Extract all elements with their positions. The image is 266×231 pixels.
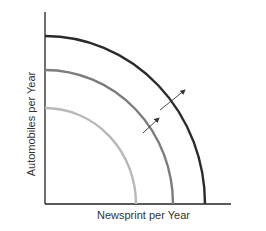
ppf-diagram (0, 0, 266, 231)
x-axis-label: Newsprint per Year (97, 209, 190, 221)
y-axis-label: Automobiles per Year (25, 69, 37, 179)
outer-ppf-curve (45, 36, 205, 204)
inner-ppf-curve (45, 108, 136, 204)
